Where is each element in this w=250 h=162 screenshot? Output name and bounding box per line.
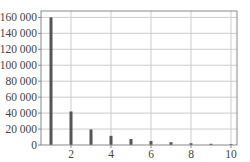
y-tick-label: 60 000	[5, 91, 37, 103]
x-tick-label: 6	[148, 148, 154, 160]
bar-6	[150, 141, 153, 145]
x-tick-label: 10	[225, 148, 237, 160]
bar-4	[110, 136, 113, 145]
x-tick-label: 4	[108, 148, 114, 160]
bar-2	[70, 112, 73, 146]
y-tick-label: 120 000	[0, 43, 37, 55]
y-tick-label: 0	[31, 139, 37, 151]
x-tick-label: 2	[68, 148, 74, 160]
y-tick-label: 140 000	[0, 27, 37, 39]
y-tick-label: 80 000	[5, 75, 37, 87]
y-tick-label: 160 000	[0, 11, 37, 23]
x-axis: 246810	[68, 145, 237, 160]
y-tick-label: 100 000	[0, 59, 37, 71]
bar-5	[130, 139, 133, 145]
y-axis: 020 00040 00060 00080 000100 000120 0001…	[0, 11, 41, 151]
x-tick-label: 8	[188, 148, 194, 160]
y-tick-label: 20 000	[5, 123, 37, 135]
bar-1	[50, 17, 53, 145]
bar-chart: 020 00040 00060 00080 000100 000120 0001…	[0, 0, 250, 162]
bar-3	[90, 129, 93, 145]
y-tick-label: 40 000	[5, 107, 37, 119]
